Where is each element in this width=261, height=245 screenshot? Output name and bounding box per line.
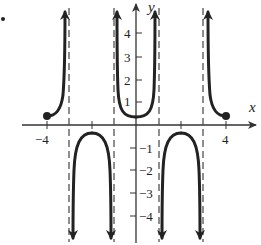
endpoint-right <box>222 112 230 120</box>
branch-5 <box>208 12 226 116</box>
branch-2-right <box>92 133 111 238</box>
y-tick-label-neg4: −4 <box>139 209 153 224</box>
y-tick-label-neg2: −2 <box>139 163 153 178</box>
y-tick-label-2: 2 <box>124 73 131 88</box>
x-tick-label-neg4: −4 <box>35 132 49 147</box>
chart-plot: x y −4 4 4 3 2 1 −1 −2 −3 −4 <box>0 0 261 245</box>
y-tick-label-4: 4 <box>124 26 131 41</box>
bullet-mark <box>1 17 5 21</box>
y-tick-label-1: 1 <box>124 94 131 109</box>
x-axis-label: x <box>248 99 256 115</box>
y-tick-label-neg1: −1 <box>139 141 153 156</box>
branch-4-right <box>181 133 200 238</box>
y-tick-label-neg3: −3 <box>139 186 153 201</box>
branch-4-left <box>162 133 181 238</box>
branch-2-left <box>73 133 92 238</box>
x-tick-label-4: 4 <box>222 132 229 147</box>
branch-3-right <box>136 12 155 117</box>
y-tick-label-3: 3 <box>124 50 131 65</box>
branch-1 <box>47 12 65 116</box>
endpoint-left <box>43 112 51 120</box>
